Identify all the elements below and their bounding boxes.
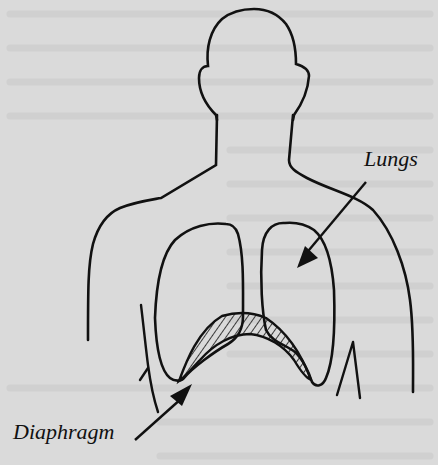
diaphragm-shape [179, 313, 311, 381]
right-rib-stroke [337, 342, 360, 398]
diaphragm-label: Diaphragm [13, 419, 114, 445]
diaphragm-arrow-head [170, 384, 192, 406]
torso-diagram [0, 0, 438, 465]
head-outline [199, 9, 309, 120]
lungs-arrow-shaft [304, 182, 366, 256]
lungs-arrow-head [297, 246, 318, 268]
left-rib-tick [140, 368, 148, 380]
lungs-label: Lungs [364, 146, 418, 172]
diaphragm-arrow-shaft [135, 398, 182, 440]
diagram-canvas: Lungs Diaphragm [0, 0, 438, 465]
